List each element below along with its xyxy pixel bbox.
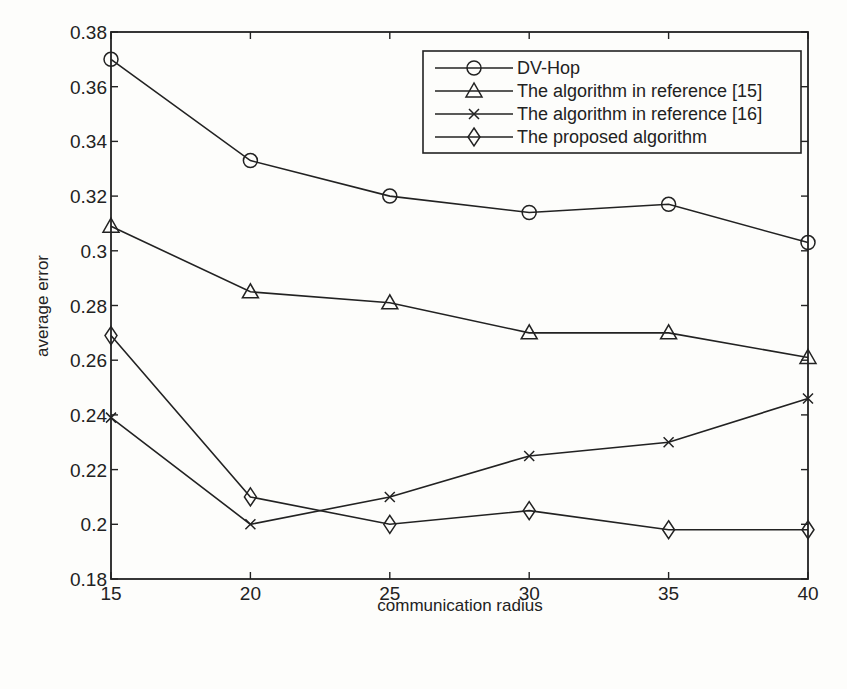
y-tick-label: 0.32: [70, 186, 107, 207]
triangle-marker-icon: [661, 325, 677, 339]
legend: DV-HopThe algorithm in reference [15]The…: [423, 51, 801, 153]
legend-label: The algorithm in reference [16]: [517, 104, 762, 124]
y-tick-label: 0.24: [70, 405, 107, 426]
y-axis-label: average error: [33, 255, 52, 357]
y-tick-label: 0.36: [70, 77, 107, 98]
legend-label: The proposed algorithm: [517, 127, 707, 147]
series-3: [105, 327, 814, 539]
series-1: [103, 218, 816, 363]
x-tick-label: 40: [797, 583, 818, 604]
y-tick-label: 0.38: [70, 22, 107, 43]
x-tick-label: 20: [240, 583, 261, 604]
series-line: [111, 336, 808, 530]
series-2: [106, 393, 813, 529]
x-tick-label: 15: [100, 583, 121, 604]
legend-label: DV-Hop: [517, 58, 580, 78]
y-tick-label: 0.34: [70, 131, 107, 152]
legend-item: The proposed algorithm: [435, 127, 707, 147]
y-tick-label: 0.22: [70, 460, 107, 481]
series-line: [111, 398, 808, 524]
line-chart: 0.180.20.220.240.260.280.30.320.340.360.…: [0, 0, 847, 689]
y-tick-label: 0.2: [81, 514, 107, 535]
y-tick-label: 0.28: [70, 296, 107, 317]
triangle-marker-icon: [242, 284, 258, 298]
x-tick-label: 35: [658, 583, 679, 604]
legend-label: The algorithm in reference [15]: [517, 81, 762, 101]
y-tick-label: 0.3: [81, 241, 107, 262]
x-axis-label: communication radius: [377, 596, 542, 615]
series-line: [111, 226, 808, 357]
y-tick-label: 0.26: [70, 350, 107, 371]
